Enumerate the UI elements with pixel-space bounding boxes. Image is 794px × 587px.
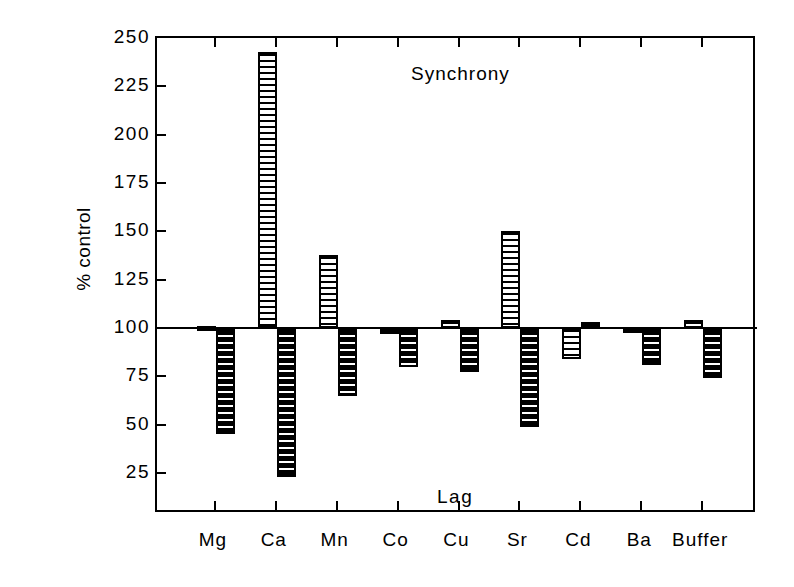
y-tick-label: 225 <box>88 75 150 94</box>
x-tick-label-sr: Sr <box>507 529 528 551</box>
bar-ca-synchrony <box>258 52 277 328</box>
x-axis-tick-mark <box>579 501 581 510</box>
x-axis-tick-mark <box>336 38 338 47</box>
y-tick-label: 100 <box>88 317 150 336</box>
x-axis-tick-mark <box>518 501 520 510</box>
bar-buffer-lag <box>703 328 722 378</box>
y-axis-tick-mark <box>157 424 166 426</box>
y-axis-tick-mark <box>157 472 166 474</box>
x-tick-label-cu: Cu <box>443 529 469 551</box>
x-tick-label-mg: Mg <box>199 529 227 551</box>
x-axis-tick-mark <box>518 38 520 47</box>
x-axis-tick-mark <box>458 501 460 510</box>
x-axis-tick-mark <box>397 501 399 510</box>
y-axis-tick-mark <box>157 279 166 281</box>
y-axis-tick-mark <box>157 375 166 377</box>
y-axis-tick-labels: 250225200175150125100755025 <box>88 0 150 587</box>
x-axis-tick-labels: MgCaMnCoCuSrCdBaBuffer <box>0 529 794 569</box>
y-axis-tick-mark <box>157 327 166 329</box>
bar-mg-synchrony <box>197 326 216 331</box>
x-axis-tick-mark <box>275 38 277 47</box>
x-axis-tick-mark <box>275 501 277 510</box>
x-axis-tick-mark <box>214 501 216 510</box>
x-axis-tick-mark <box>214 38 216 47</box>
x-tick-label-cd: Cd <box>565 529 591 551</box>
bar-sr-synchrony <box>501 231 520 328</box>
annotation-lag: Lag <box>437 486 473 508</box>
x-tick-label-co: Co <box>382 529 408 551</box>
bar-ca-lag <box>277 328 296 477</box>
x-tick-label-ba: Ba <box>627 529 652 551</box>
y-axis-tick-mark <box>157 230 166 232</box>
y-tick-label: 200 <box>88 123 150 142</box>
y-tick-label: 150 <box>88 220 150 239</box>
bar-mn-synchrony <box>319 255 338 328</box>
y-tick-label: 50 <box>88 413 150 432</box>
x-axis-tick-mark <box>701 38 703 47</box>
bar-ba-lag <box>642 328 661 365</box>
x-axis-tick-mark <box>640 38 642 47</box>
figure-bar-chart: % control 250225200175150125100755025 Sy… <box>0 0 794 587</box>
x-axis-tick-mark <box>336 501 338 510</box>
bar-ba-synchrony <box>623 328 642 333</box>
plot-area: Synchrony Lag <box>155 36 755 512</box>
bar-co-synchrony <box>380 328 399 334</box>
bar-cu-lag <box>460 328 479 372</box>
bar-cu-synchrony <box>441 320 460 328</box>
x-axis-tick-mark <box>397 38 399 47</box>
bar-buffer-synchrony <box>684 320 703 328</box>
y-axis-tick-mark <box>157 134 166 136</box>
bar-mn-lag <box>338 328 357 396</box>
x-axis-tick-mark <box>640 501 642 510</box>
x-axis-tick-mark <box>458 38 460 47</box>
x-tick-label-ca: Ca <box>261 529 287 551</box>
y-tick-label: 250 <box>88 27 150 46</box>
y-axis-tick-mark <box>157 182 166 184</box>
x-axis-tick-mark <box>701 501 703 510</box>
annotation-synchrony: Synchrony <box>411 63 510 85</box>
bar-cd-lag <box>581 322 600 328</box>
y-tick-label: 125 <box>88 268 150 287</box>
x-tick-label-buffer: Buffer <box>672 529 728 551</box>
x-tick-label-mn: Mn <box>320 529 348 551</box>
bar-cd-synchrony <box>562 328 581 359</box>
y-tick-label: 175 <box>88 172 150 191</box>
y-tick-label: 75 <box>88 365 150 384</box>
bar-sr-lag <box>520 328 539 427</box>
bar-mg-lag <box>216 328 235 434</box>
y-axis-tick-mark <box>157 85 166 87</box>
x-axis-tick-mark <box>579 38 581 47</box>
bar-co-lag <box>399 328 418 367</box>
y-tick-label: 25 <box>88 462 150 481</box>
